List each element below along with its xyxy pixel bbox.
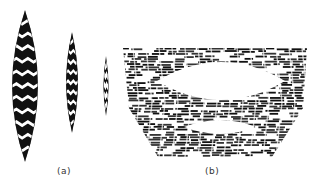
spindle <box>103 56 109 116</box>
figure-canvas <box>0 0 318 187</box>
panel-b-label: (b) <box>205 166 219 176</box>
panel-a-spindles <box>11 10 109 162</box>
panel-a-label: (a) <box>57 166 71 176</box>
spindle <box>11 10 40 162</box>
panel-b-textured-block <box>118 48 318 157</box>
spindle <box>65 32 78 133</box>
